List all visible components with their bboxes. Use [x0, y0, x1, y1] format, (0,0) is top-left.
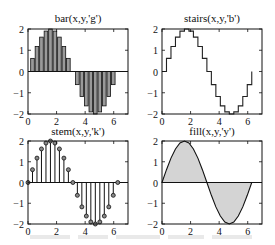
x-tick-label: 4 — [83, 116, 88, 127]
bar — [98, 72, 102, 112]
y-tick-label: −1 — [147, 88, 158, 99]
stem-marker — [62, 156, 66, 160]
bar — [107, 72, 111, 97]
x-tick-label: 2 — [54, 116, 59, 127]
x-tick-label: 6 — [111, 116, 116, 127]
y-tick-label: 2 — [153, 136, 158, 147]
axes-fill: 0246−2−1012 — [147, 136, 262, 237]
y-tick-label: −2 — [147, 109, 158, 120]
figure-canvas: 0246−2−10120246−2−10120246−2−10120246−2−… — [0, 0, 275, 245]
bar — [85, 72, 89, 106]
bar — [76, 72, 80, 85]
y-tick-label: −1 — [13, 88, 24, 99]
stem-marker — [84, 214, 88, 218]
bar — [94, 72, 98, 115]
y-tick-label: 1 — [19, 45, 24, 56]
y-tick-label: 0 — [153, 178, 158, 189]
bar — [103, 72, 107, 106]
stem-marker — [75, 193, 79, 197]
bar — [58, 37, 62, 71]
stem-marker — [80, 205, 84, 209]
x-tick-label: 4 — [217, 116, 222, 127]
stem-marker — [39, 147, 43, 151]
y-tick-label: 0 — [153, 67, 158, 78]
bar — [31, 58, 35, 71]
axes-frame — [162, 29, 262, 114]
stem-marker — [111, 193, 115, 197]
stem-marker — [30, 168, 34, 172]
bar — [44, 31, 48, 71]
stem-marker — [57, 147, 61, 151]
bar — [80, 72, 84, 97]
y-tick-label: 2 — [19, 136, 24, 147]
axes-stem: 0246−2−1012 — [13, 136, 128, 237]
bar — [49, 29, 53, 72]
stem-marker — [66, 168, 70, 172]
bar — [53, 31, 57, 71]
stairs-line — [162, 29, 252, 114]
y-tick-label: 1 — [19, 157, 24, 168]
bar — [40, 37, 44, 71]
stem-marker — [71, 181, 75, 185]
stem-marker — [35, 156, 39, 160]
faded-caption — [30, 233, 260, 241]
y-tick-label: −2 — [13, 109, 24, 120]
axes-stairs: 0246−2−1012 — [147, 24, 262, 127]
x-tick-label: 0 — [160, 116, 165, 127]
y-tick-label: −1 — [13, 198, 24, 209]
y-tick-label: 1 — [153, 157, 158, 168]
stem-marker — [116, 181, 120, 185]
x-tick-label: 2 — [188, 116, 193, 127]
y-tick-label: −2 — [13, 219, 24, 230]
bar — [35, 47, 39, 72]
y-tick-label: 1 — [153, 45, 158, 56]
stem-marker — [44, 141, 48, 145]
stem-marker — [107, 205, 111, 209]
bar — [111, 72, 115, 85]
faded-caption-strokes — [30, 233, 260, 241]
bar — [62, 47, 66, 72]
y-tick-label: 0 — [19, 67, 24, 78]
y-tick-label: 2 — [19, 24, 24, 35]
y-tick-label: 2 — [153, 24, 158, 35]
stem-marker — [89, 220, 93, 224]
y-tick-label: 0 — [19, 178, 24, 189]
stem-marker — [102, 214, 106, 218]
stem-marker — [98, 220, 102, 224]
x-tick-label: 0 — [26, 116, 31, 127]
y-tick-label: −1 — [147, 198, 158, 209]
y-tick-label: −2 — [147, 219, 158, 230]
x-tick-label: 6 — [245, 116, 250, 127]
bar — [89, 72, 93, 112]
axes-bar: 0246−2−1012 — [13, 24, 128, 127]
bar — [67, 58, 71, 71]
